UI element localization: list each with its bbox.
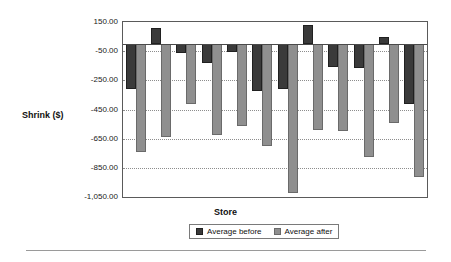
y-axis-tick-label: -1,050.00 — [84, 192, 118, 201]
bar-average-after — [262, 44, 272, 146]
bar-average-before — [328, 44, 338, 67]
zero-line — [123, 44, 427, 45]
y-axis-tick-label: 150.00 — [94, 17, 118, 26]
chart-legend: Average beforeAverage after — [189, 224, 339, 239]
y-axis-tick-label: -650.00 — [91, 134, 118, 143]
y-axis-title: Shrink ($) — [22, 110, 64, 120]
legend-label: Average after — [285, 227, 333, 236]
legend-label: Average before — [207, 227, 262, 236]
bar-average-before — [151, 28, 161, 44]
bar-average-after — [338, 44, 348, 132]
bar-average-before — [176, 44, 186, 53]
y-axis-tick-label: -50.00 — [95, 46, 118, 55]
bar-average-before — [227, 44, 237, 52]
bar-average-after — [186, 44, 196, 104]
bar-average-before — [126, 44, 136, 89]
bar-average-after — [288, 44, 298, 193]
bar-average-after — [136, 44, 146, 152]
shrink-bar-chart-figure: 150.00-50.00-250.00-450.00-650.00-850.00… — [0, 0, 451, 262]
bar-average-before — [278, 44, 288, 89]
y-axis-tick-label: -850.00 — [91, 163, 118, 172]
bar-average-before — [202, 44, 212, 63]
x-axis-title: Store — [0, 207, 451, 217]
legend-item: Average before — [196, 227, 262, 236]
bars-layer — [123, 22, 427, 197]
bar-average-after — [237, 44, 247, 126]
bottom-divider — [26, 250, 426, 251]
bar-average-after — [414, 44, 424, 177]
filled-square-dark-icon — [196, 228, 203, 235]
bar-average-before — [252, 44, 262, 91]
bar-average-after — [313, 44, 323, 130]
bar-average-after — [364, 44, 374, 157]
legend-item: Average after — [274, 227, 333, 236]
filled-square-gray-icon — [274, 228, 281, 235]
bar-average-after — [161, 44, 171, 137]
bar-average-after — [389, 44, 399, 123]
y-axis-ticks: 150.00-50.00-250.00-450.00-650.00-850.00… — [58, 0, 118, 262]
y-axis-tick-label: -450.00 — [91, 105, 118, 114]
bar-average-before — [354, 44, 364, 68]
y-axis-tick-label: -250.00 — [91, 75, 118, 84]
bar-average-before — [404, 44, 414, 104]
bar-average-after — [212, 44, 222, 135]
bar-average-before — [303, 25, 313, 44]
plot-area — [122, 21, 428, 198]
